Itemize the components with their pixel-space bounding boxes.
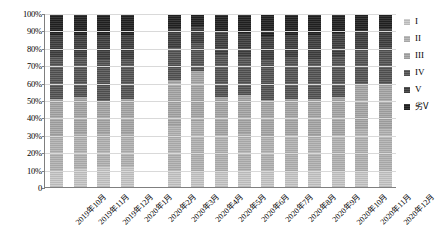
legend-label: IV bbox=[415, 68, 425, 77]
bar-segment-I bbox=[308, 170, 321, 187]
legend-item-V[interactable]: V bbox=[404, 81, 439, 98]
gridline bbox=[45, 118, 396, 119]
bar-segment-IV bbox=[308, 59, 321, 99]
bar-segment-I bbox=[97, 166, 110, 187]
y-axis-tick-mark bbox=[42, 188, 45, 189]
bar-segment-劣V bbox=[168, 14, 181, 28]
x-axis: 2019年10月2019年11月2019年12月2020年1月2020年2月20… bbox=[0, 190, 439, 251]
bar-segment-劣V bbox=[261, 14, 274, 36]
bar-segment-III bbox=[355, 85, 368, 128]
bar-segment-劣V bbox=[355, 14, 368, 30]
bar-segment-V bbox=[74, 35, 87, 57]
y-axis-tick-mark bbox=[42, 136, 45, 137]
y-axis-tick-label: 40% bbox=[0, 114, 42, 122]
bar-segment-II bbox=[74, 133, 87, 168]
gridline bbox=[45, 153, 396, 154]
bar-segment-III bbox=[332, 97, 345, 135]
gridline bbox=[45, 66, 396, 67]
bar-segment-I bbox=[285, 171, 298, 187]
bar-segment-IV bbox=[238, 56, 251, 96]
bar-segment-I bbox=[191, 171, 204, 187]
y-axis-tick-label: 80% bbox=[0, 45, 42, 53]
bar-segment-II bbox=[238, 133, 251, 169]
bar-segment-V bbox=[285, 35, 298, 57]
y-axis-tick-mark bbox=[42, 118, 45, 119]
y-axis-tick-mark bbox=[42, 84, 45, 85]
bar-segment-III bbox=[191, 71, 204, 121]
y-axis-tick-mark bbox=[42, 49, 45, 50]
bar-segment-劣V bbox=[238, 14, 251, 33]
y-axis-tick-mark bbox=[42, 31, 45, 32]
legend-label: V bbox=[415, 85, 422, 94]
bar-segment-I bbox=[355, 171, 368, 187]
chart-legend: IIIIIIIVV劣V bbox=[404, 13, 439, 115]
bar-segment-I bbox=[379, 171, 392, 187]
legend-swatch-icon bbox=[404, 70, 410, 76]
bar-segment-III bbox=[50, 99, 63, 135]
y-axis-tick-label: 70% bbox=[0, 62, 42, 70]
y-axis-tick-label: 50% bbox=[0, 97, 42, 105]
bar-segment-II bbox=[191, 121, 204, 171]
bar-segment-IV bbox=[121, 59, 134, 99]
bar-segment-III bbox=[285, 99, 298, 135]
gridline bbox=[45, 101, 396, 102]
y-axis-tick-mark bbox=[42, 101, 45, 102]
y-axis-tick-mark bbox=[42, 66, 45, 67]
bar-segment-劣V bbox=[379, 14, 392, 28]
bar-segment-I bbox=[121, 166, 134, 187]
bar-segment-III bbox=[379, 85, 392, 128]
gridline bbox=[45, 136, 396, 137]
bar-segment-III bbox=[308, 99, 321, 135]
gridline bbox=[45, 171, 396, 172]
bar-segment-I bbox=[50, 170, 63, 187]
bar-segment-IV bbox=[215, 54, 228, 97]
y-axis-tick-label: 30% bbox=[0, 132, 42, 140]
legend-item-IV[interactable]: IV bbox=[404, 64, 439, 81]
bar-segment-劣V bbox=[215, 14, 228, 31]
bar-segment-II bbox=[97, 133, 110, 166]
y-axis-tick-mark bbox=[42, 171, 45, 172]
legend-item-III[interactable]: III bbox=[404, 47, 439, 64]
bar-segment-IV bbox=[332, 56, 345, 98]
legend-item-劣V[interactable]: 劣V bbox=[404, 98, 439, 115]
bar-segment-III bbox=[121, 99, 134, 134]
bar-segment-III bbox=[74, 97, 87, 133]
bar-segment-II bbox=[379, 128, 392, 171]
bar-segment-劣V bbox=[332, 14, 345, 33]
legend-item-II[interactable]: II bbox=[404, 30, 439, 47]
bar-segment-III bbox=[215, 97, 228, 135]
y-axis-tick-mark bbox=[42, 153, 45, 154]
bar-segment-V bbox=[261, 36, 274, 58]
legend-swatch-icon bbox=[404, 104, 410, 110]
y-axis-tick-label: 20% bbox=[0, 149, 42, 157]
legend-label: I bbox=[415, 17, 418, 26]
bar-segment-I bbox=[238, 170, 251, 187]
y-axis-tick-mark bbox=[42, 14, 45, 15]
legend-swatch-icon bbox=[404, 36, 410, 42]
bar-segment-V bbox=[308, 35, 321, 59]
stacked-bar-chart: 100%90%80%70%60%50%40%30%20%10%0 2019年10… bbox=[0, 0, 439, 251]
bar-segment-II bbox=[121, 133, 134, 166]
legend-label: III bbox=[415, 51, 424, 60]
legend-label: II bbox=[415, 34, 421, 43]
bar-segment-V bbox=[50, 35, 63, 57]
bar-segment-劣V bbox=[191, 14, 204, 26]
y-axis-tick-label: 100% bbox=[0, 10, 42, 18]
bar-segment-IV bbox=[74, 57, 87, 97]
y-axis-tick-label: 90% bbox=[0, 27, 42, 35]
bar-segment-V bbox=[332, 33, 345, 55]
bar-segment-IV bbox=[50, 57, 63, 99]
legend-item-I[interactable]: I bbox=[404, 13, 439, 30]
gridline bbox=[45, 49, 396, 50]
legend-swatch-icon bbox=[404, 19, 410, 25]
bar-segment-I bbox=[215, 171, 228, 187]
bar-segment-II bbox=[355, 128, 368, 171]
bar-segment-V bbox=[97, 35, 110, 59]
bar-segment-V bbox=[191, 26, 204, 43]
bar-segment-V bbox=[238, 33, 251, 55]
bar-segment-II bbox=[168, 125, 181, 170]
gridline bbox=[45, 14, 396, 15]
bar-segment-IV bbox=[261, 59, 274, 101]
bar-segment-I bbox=[261, 170, 274, 187]
bar-segment-IV bbox=[285, 57, 298, 99]
